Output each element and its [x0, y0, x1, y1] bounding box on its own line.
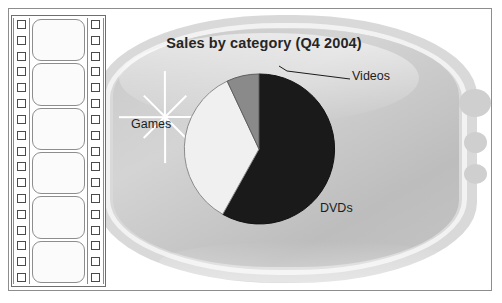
sprocket-hole	[91, 67, 100, 76]
sprocket-hole	[17, 20, 26, 29]
sprocket-hole	[17, 178, 26, 187]
screenshot-root: Sales by category (Q4 2004)	[0, 0, 502, 303]
sprocket-hole	[91, 131, 100, 140]
image-border: Sales by category (Q4 2004)	[8, 8, 492, 291]
filmstrip-decoration	[11, 15, 106, 287]
sprocket-hole	[17, 257, 26, 266]
sprocket-hole	[91, 147, 100, 156]
sprocket-hole	[17, 273, 26, 282]
sprocket-hole	[91, 36, 100, 45]
sprocket-hole	[17, 162, 26, 171]
pie-label-dvds: DVDs	[320, 201, 353, 215]
sprocket-hole	[17, 210, 26, 219]
videos-leader-line	[279, 66, 350, 79]
film-frame-list	[32, 18, 85, 284]
sprocket-hole	[91, 210, 100, 219]
pie-label-videos: Videos	[352, 69, 390, 83]
sprocket-column-left	[13, 18, 30, 284]
film-frame	[32, 108, 85, 150]
sprocket-hole	[17, 226, 26, 235]
sprocket-hole	[17, 241, 26, 250]
film-frame	[32, 196, 85, 238]
sprocket-hole	[91, 83, 100, 92]
film-frame	[32, 19, 85, 61]
sprocket-hole	[91, 226, 100, 235]
sprocket-hole	[91, 162, 100, 171]
sprocket-hole	[17, 194, 26, 203]
sprocket-hole	[17, 131, 26, 140]
sprocket-hole	[91, 257, 100, 266]
sprocket-hole	[17, 67, 26, 76]
film-frame	[32, 152, 85, 194]
film-frame	[32, 63, 85, 105]
sprocket-hole	[91, 20, 100, 29]
sprocket-hole	[91, 52, 100, 61]
sprocket-column-right	[87, 18, 104, 284]
sprocket-hole	[17, 115, 26, 124]
sprocket-hole	[91, 194, 100, 203]
film-frame	[32, 241, 85, 283]
sprocket-hole	[17, 83, 26, 92]
pie-label-games: Games	[131, 117, 171, 131]
sprocket-hole	[91, 115, 100, 124]
sprocket-hole	[17, 147, 26, 156]
sprocket-hole	[91, 273, 100, 282]
sprocket-hole	[91, 178, 100, 187]
sprocket-hole	[17, 99, 26, 108]
sprocket-hole	[91, 241, 100, 250]
sprocket-hole	[17, 36, 26, 45]
sprocket-hole	[17, 52, 26, 61]
sprocket-hole	[91, 99, 100, 108]
